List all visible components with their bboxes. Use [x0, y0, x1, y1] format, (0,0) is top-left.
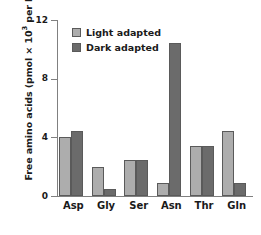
- legend-label: Light adapted: [86, 28, 161, 38]
- legend-swatch-icon: [72, 28, 81, 37]
- y-axis-title-prefix: Free amino acids (pmol × 10: [23, 31, 34, 181]
- legend-item: Dark adapted: [72, 41, 161, 54]
- x-axis-label-gly: Gly: [89, 200, 123, 212]
- x-axis-line: [57, 196, 253, 197]
- y-axis-tick-label: 8: [8, 74, 48, 83]
- legend-swatch-icon: [72, 43, 81, 52]
- bar-group: [220, 20, 253, 196]
- bar-asp-dark: [71, 131, 83, 196]
- y-axis-tick-mark: [51, 196, 57, 197]
- bar-group: [188, 20, 221, 196]
- bar-ser-dark: [136, 160, 148, 196]
- legend-item: Light adapted: [72, 26, 161, 39]
- bar-ser-light: [124, 160, 136, 196]
- x-axis-label-asn: Asn: [154, 200, 188, 212]
- bar-gln-dark: [234, 183, 246, 196]
- bar-gln-light: [222, 131, 234, 196]
- y-axis-title: Free amino acids (pmol × 103 per leaf): [23, 1, 34, 181]
- bar-thr-light: [190, 146, 202, 196]
- legend-label: Dark adapted: [86, 43, 159, 53]
- x-axis-label-asp: Asp: [56, 200, 90, 212]
- x-axis-label-gln: Gln: [220, 200, 254, 212]
- bar-chart-figure: Free amino acids (pmol × 103 per leaf) 0…: [0, 0, 261, 235]
- bar-asn-light: [157, 183, 169, 196]
- y-axis-tick-label: 12: [8, 16, 48, 25]
- y-axis-tick-label: 4: [8, 133, 48, 142]
- bar-thr-dark: [202, 146, 214, 196]
- y-axis-title-exponent: 3: [21, 26, 29, 31]
- bar-asp-light: [59, 137, 71, 196]
- bar-asn-dark: [169, 43, 181, 196]
- chart-legend: Light adaptedDark adapted: [72, 26, 161, 56]
- bar-gly-dark: [104, 189, 116, 196]
- x-axis-label-thr: Thr: [187, 200, 221, 212]
- bar-gly-light: [92, 167, 104, 196]
- x-axis-label-ser: Ser: [122, 200, 156, 212]
- y-axis-tick-label: 0: [8, 192, 48, 201]
